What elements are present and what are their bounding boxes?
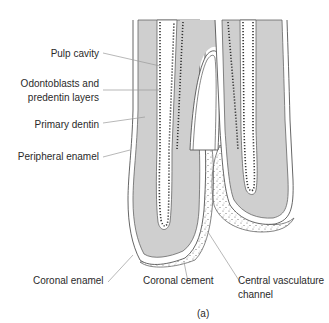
label-central-vasculature-line1: Central vasculature	[238, 275, 324, 287]
label-primary-dentin: Primary dentin	[35, 119, 99, 131]
label-odontoblasts-line1: Odontoblasts and	[21, 78, 99, 90]
label-pulp-cavity: Pulp cavity	[51, 48, 99, 60]
label-peripheral-enamel: Peripheral enamel	[18, 151, 99, 163]
label-central-vasculature-line2: channel	[238, 289, 273, 301]
label-coronal-cement: Coronal cement	[143, 275, 214, 287]
label-odontoblasts-line2: predentin layers	[28, 92, 99, 104]
figure-caption: (a)	[197, 308, 209, 319]
label-coronal-enamel: Coronal enamel	[33, 275, 104, 287]
